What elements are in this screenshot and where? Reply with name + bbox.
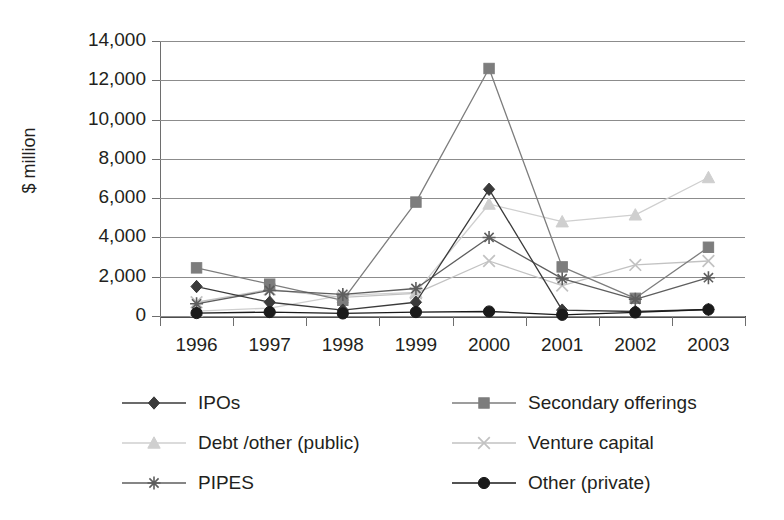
square-marker	[484, 63, 494, 73]
legend-item-pipes[interactable]: PIPES	[120, 468, 254, 498]
asterisk-marker	[263, 284, 276, 297]
y-tick-mark	[152, 120, 160, 121]
x-tick-label: 2001	[527, 334, 597, 356]
x-tick-mark	[306, 317, 307, 326]
circle-icon	[450, 472, 518, 494]
y-tick-label: 8,000	[36, 148, 146, 167]
square-marker	[703, 242, 713, 252]
y-tick-mark	[152, 316, 160, 317]
square-icon	[450, 392, 518, 414]
x-tick-mark	[526, 317, 527, 326]
y-tick-mark	[152, 198, 160, 199]
triangle-marker	[483, 198, 495, 209]
x-tick-label: 1998	[308, 334, 378, 356]
asterisk-icon	[120, 472, 188, 494]
legend-item-ipos[interactable]: IPOs	[120, 388, 240, 418]
series-layer	[160, 41, 745, 316]
triangle-marker	[629, 209, 641, 220]
y-tick-label: 6,000	[36, 187, 146, 206]
x-tick-label: 1999	[381, 334, 451, 356]
chart-legend: IPOsSecondary offeringsDebt /other (publ…	[120, 388, 780, 513]
legend-label: Other (private)	[528, 472, 650, 494]
circle-marker	[478, 477, 489, 488]
y-tick-mark	[152, 41, 160, 42]
y-tick-mark	[152, 80, 160, 81]
diamond-marker	[483, 183, 494, 195]
y-tick-mark	[152, 277, 160, 278]
legend-label: IPOs	[198, 392, 240, 414]
square-marker	[557, 262, 567, 272]
legend-item-venture-capital[interactable]: Venture capital	[450, 428, 654, 458]
legend-label: Venture capital	[528, 432, 654, 454]
circle-marker	[264, 306, 275, 317]
y-tick-label: 14,000	[36, 30, 146, 49]
y-tick-label: 4,000	[36, 226, 146, 245]
circle-marker	[337, 308, 348, 319]
legend-label: Secondary offerings	[528, 392, 697, 414]
legend-item-secondary-offerings[interactable]: Secondary offerings	[450, 388, 697, 418]
legend-label: Debt /other (public)	[198, 432, 360, 454]
circle-marker	[191, 307, 202, 318]
x-tick-label: 1997	[235, 334, 305, 356]
x-tick-mark	[599, 317, 600, 326]
square-marker	[411, 197, 421, 207]
y-tick-label: 0	[36, 305, 146, 324]
x-tick-label: 1996	[162, 334, 232, 356]
square-marker	[479, 398, 489, 408]
legend-item-debt-other-public[interactable]: Debt /other (public)	[120, 428, 360, 458]
triangle-icon	[120, 432, 188, 454]
x-tick-mark	[453, 317, 454, 326]
circle-marker	[630, 307, 641, 318]
diamond-marker	[191, 280, 202, 292]
circle-marker	[483, 306, 494, 317]
x-tick-label: 2000	[454, 334, 524, 356]
legend-item-other-private[interactable]: Other (private)	[450, 468, 650, 498]
circle-marker	[703, 304, 714, 315]
asterisk-marker	[483, 231, 496, 244]
x-tick-label: 2003	[673, 334, 743, 356]
plot-area	[160, 41, 745, 316]
legend-label: PIPES	[198, 472, 254, 494]
x-tick-mark	[745, 317, 746, 326]
y-tick-label: 12,000	[36, 69, 146, 88]
x-tick-mark	[233, 317, 234, 326]
asterisk-marker	[148, 477, 161, 490]
square-marker	[191, 263, 201, 273]
x-tick-mark	[160, 317, 161, 326]
asterisk-marker	[702, 271, 715, 284]
cross-icon	[450, 432, 518, 454]
x-tick-mark	[672, 317, 673, 326]
diamond-icon	[120, 392, 188, 414]
x-tick-mark	[379, 317, 380, 326]
chart-container: $ million 02,0004,0006,0008,00010,00012,…	[0, 0, 784, 520]
circle-marker	[410, 306, 421, 317]
y-tick-mark	[152, 159, 160, 160]
diamond-marker	[148, 397, 159, 409]
asterisk-marker	[336, 288, 349, 301]
series-secondary-offerings	[191, 63, 713, 305]
triangle-marker	[702, 171, 714, 182]
x-tick-label: 2002	[600, 334, 670, 356]
asterisk-marker	[556, 272, 569, 285]
y-tick-label: 10,000	[36, 109, 146, 128]
circle-marker	[557, 309, 568, 320]
asterisk-marker	[629, 293, 642, 306]
y-tick-label: 2,000	[36, 266, 146, 285]
gridline	[160, 316, 745, 317]
y-tick-mark	[152, 237, 160, 238]
cross-marker	[483, 255, 495, 267]
asterisk-marker	[409, 282, 422, 295]
